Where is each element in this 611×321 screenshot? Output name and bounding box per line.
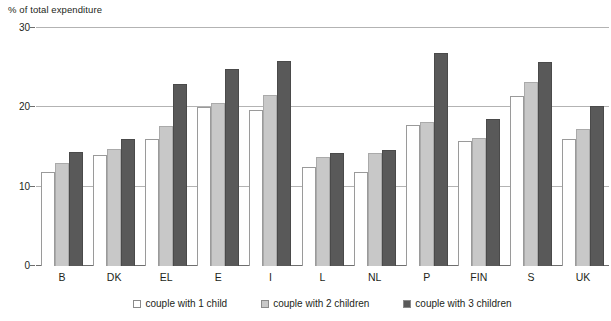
bar-el-series-3 bbox=[173, 84, 187, 266]
y-tick-label-20: 20 bbox=[19, 101, 30, 112]
bar-group-fin bbox=[453, 28, 505, 266]
bar-i-series-3 bbox=[277, 61, 291, 266]
bar-group-s bbox=[505, 28, 557, 266]
y-tick-label-10: 10 bbox=[19, 180, 30, 191]
bar-group-uk bbox=[557, 28, 609, 266]
bar-uk-series-2 bbox=[576, 129, 590, 266]
bar-el-series-1 bbox=[145, 139, 159, 266]
bar-i-series-2 bbox=[263, 95, 277, 266]
y-tick-mark-10 bbox=[30, 186, 35, 187]
bar-nl-series-3 bbox=[382, 150, 396, 266]
legend-item-2[interactable]: couple with 2 children bbox=[261, 298, 369, 309]
legend-item-3[interactable]: couple with 3 children bbox=[403, 298, 511, 309]
x-label-p: P bbox=[401, 270, 453, 288]
y-tick-mark-20 bbox=[30, 106, 35, 107]
bar-uk-series-3 bbox=[590, 106, 604, 266]
bar-group-dk bbox=[88, 28, 140, 266]
bar-fin-series-2 bbox=[472, 138, 486, 266]
bar-group-nl bbox=[349, 28, 401, 266]
legend-label-3: couple with 3 children bbox=[415, 298, 511, 309]
bar-group-i bbox=[244, 28, 296, 266]
x-label-b: B bbox=[36, 270, 88, 288]
bar-fin-series-3 bbox=[486, 119, 500, 266]
bar-s-series-3 bbox=[538, 62, 552, 266]
bar-s-series-1 bbox=[510, 96, 524, 266]
bar-p-series-3 bbox=[434, 53, 448, 266]
bar-group-p bbox=[401, 28, 453, 266]
x-axis-labels: BDKELEILNLPFINSUK bbox=[36, 270, 609, 288]
bar-chart: % of total expenditure 0102030 BDKELEILN… bbox=[0, 0, 611, 321]
bar-el-series-2 bbox=[159, 126, 173, 266]
legend-item-1[interactable]: couple with 1 child bbox=[133, 298, 227, 309]
x-label-s: S bbox=[505, 270, 557, 288]
bar-nl-series-2 bbox=[368, 153, 382, 266]
x-label-l: L bbox=[296, 270, 348, 288]
y-axis-title: % of total expenditure bbox=[8, 4, 102, 15]
bar-e-series-1 bbox=[197, 107, 211, 266]
bar-s-series-2 bbox=[524, 82, 538, 266]
white-swatch bbox=[133, 300, 141, 308]
bar-p-series-2 bbox=[420, 122, 434, 266]
y-tick-mark-0 bbox=[30, 265, 35, 266]
chart-legend: couple with 1 childcouple with 2 childre… bbox=[36, 298, 609, 309]
dark-gray-swatch bbox=[403, 300, 411, 308]
bar-groups bbox=[36, 28, 609, 266]
bar-group-b bbox=[36, 28, 88, 266]
x-label-dk: DK bbox=[88, 270, 140, 288]
bar-dk-series-2 bbox=[107, 149, 121, 266]
bar-dk-series-1 bbox=[93, 155, 107, 266]
y-tick-mark-30 bbox=[30, 27, 35, 28]
bar-b-series-1 bbox=[41, 172, 55, 266]
x-label-i: I bbox=[244, 270, 296, 288]
legend-label-2: couple with 2 children bbox=[273, 298, 369, 309]
bar-dk-series-3 bbox=[121, 139, 135, 266]
x-label-fin: FIN bbox=[453, 270, 505, 288]
bar-uk-series-1 bbox=[562, 139, 576, 266]
x-label-uk: UK bbox=[557, 270, 609, 288]
bar-group-el bbox=[140, 28, 192, 266]
light-gray-swatch bbox=[261, 300, 269, 308]
bar-fin-series-1 bbox=[458, 141, 472, 266]
bar-b-series-3 bbox=[69, 152, 83, 266]
x-label-el: EL bbox=[140, 270, 192, 288]
bar-group-l bbox=[296, 28, 348, 266]
bar-l-series-3 bbox=[330, 153, 344, 266]
bar-e-series-3 bbox=[225, 69, 239, 266]
plot-area: 0102030 bbox=[36, 28, 609, 266]
bar-nl-series-1 bbox=[354, 172, 368, 266]
y-tick-label-30: 30 bbox=[19, 22, 30, 33]
bar-group-e bbox=[192, 28, 244, 266]
bar-e-series-2 bbox=[211, 103, 225, 266]
bar-b-series-2 bbox=[55, 163, 69, 266]
bar-p-series-1 bbox=[406, 125, 420, 266]
bar-l-series-2 bbox=[316, 157, 330, 266]
bar-l-series-1 bbox=[302, 167, 316, 266]
x-label-nl: NL bbox=[349, 270, 401, 288]
bar-i-series-1 bbox=[249, 110, 263, 266]
x-label-e: E bbox=[192, 270, 244, 288]
legend-label-1: couple with 1 child bbox=[145, 298, 227, 309]
